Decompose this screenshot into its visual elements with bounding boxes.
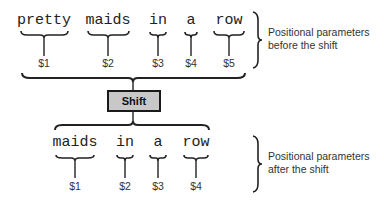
before-row: pretty maids in a row $1 $2 $3 $4 $5 bbox=[17, 12, 245, 82]
before-caption: Positional parameters before the shift bbox=[253, 12, 370, 68]
word-brace-icon bbox=[150, 155, 166, 161]
group-brace-icon bbox=[55, 121, 209, 130]
right-brace-icon bbox=[253, 12, 262, 68]
word-brace-icon bbox=[117, 155, 133, 161]
word-in: in bbox=[116, 134, 134, 151]
word-brace-icon bbox=[21, 31, 68, 38]
word-maids: maids bbox=[85, 12, 130, 29]
word-brace-icon bbox=[214, 31, 244, 38]
shift-diagram: pretty maids in a row $1 $2 $3 $4 $5 Pos… bbox=[0, 0, 384, 205]
caption-line-2: before the shift bbox=[268, 39, 338, 51]
word-maids: maids bbox=[52, 134, 97, 151]
word-brace-icon bbox=[56, 155, 94, 161]
word-brace-icon bbox=[184, 155, 208, 161]
word-row: row bbox=[215, 12, 242, 29]
word-brace-icon bbox=[185, 32, 197, 38]
word-brace-icon bbox=[88, 31, 129, 38]
shift-label: Shift bbox=[122, 95, 147, 107]
param-label: $2 bbox=[102, 57, 114, 69]
after-caption: Positional parameters after the shift bbox=[253, 136, 370, 192]
caption-line-1: Positional parameters bbox=[268, 150, 370, 162]
word-brace-icon bbox=[150, 32, 166, 38]
param-label: $2 bbox=[119, 180, 131, 192]
group-brace-icon bbox=[22, 73, 245, 82]
param-label: $4 bbox=[185, 57, 197, 69]
caption-line-1: Positional parameters bbox=[268, 26, 370, 38]
word-pretty: pretty bbox=[17, 12, 71, 29]
right-brace-icon bbox=[253, 136, 262, 192]
param-label: $4 bbox=[190, 180, 202, 192]
shift-box: Shift bbox=[108, 91, 160, 111]
word-a: a bbox=[186, 12, 195, 29]
caption-line-2: after the shift bbox=[268, 163, 329, 175]
param-label: $5 bbox=[223, 57, 235, 69]
word-a: a bbox=[153, 134, 162, 151]
word-in: in bbox=[149, 12, 167, 29]
param-label: $1 bbox=[38, 57, 50, 69]
param-label: $3 bbox=[152, 180, 164, 192]
param-label: $1 bbox=[69, 180, 81, 192]
after-row: maids in a row $1 $2 $3 $4 bbox=[52, 121, 209, 192]
param-label: $3 bbox=[152, 57, 164, 69]
word-row: row bbox=[182, 134, 209, 151]
